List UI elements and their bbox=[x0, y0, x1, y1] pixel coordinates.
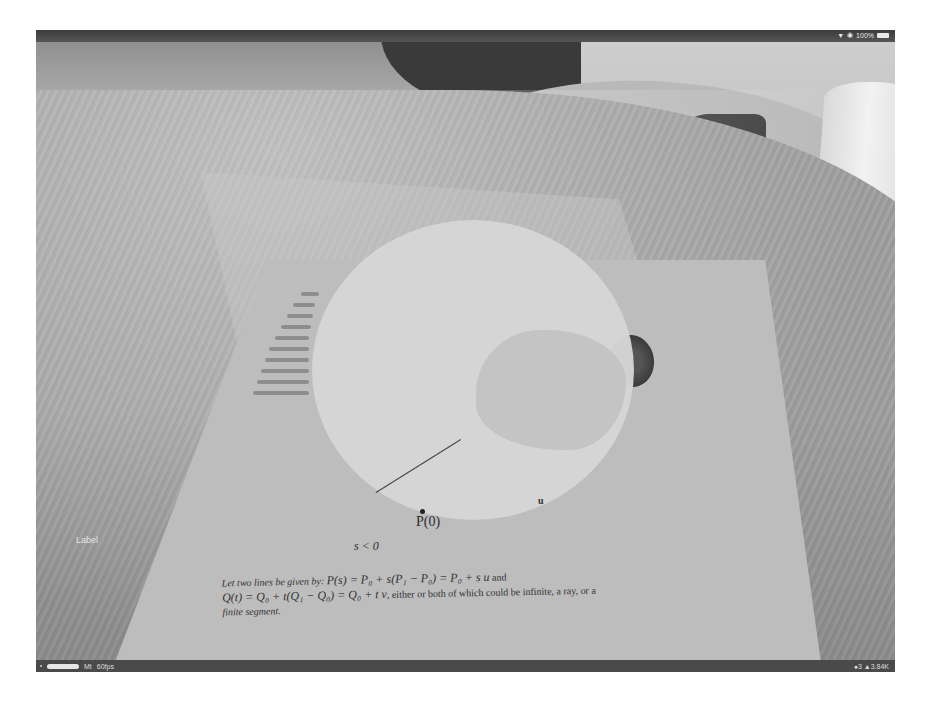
vector-mark: u bbox=[538, 495, 544, 506]
battery-percent: 100% bbox=[856, 32, 874, 39]
renderer-label: Mt bbox=[84, 663, 92, 670]
fps-counter: 60fps bbox=[97, 663, 114, 670]
ray-label: s < 0 bbox=[354, 539, 379, 554]
progress-pill bbox=[47, 664, 79, 669]
paragraph-end: finite segment. bbox=[222, 605, 281, 617]
ar-camera-view[interactable]: P(0) s < 0 u Let two lines be given by: … bbox=[36, 30, 895, 672]
paragraph-rest: , either or both of which could be infin… bbox=[387, 585, 596, 600]
battery-icon bbox=[877, 33, 889, 38]
indicator-dot-icon bbox=[40, 665, 42, 667]
debug-stats-bar: Mt 60fps ●3 ▲3.84K bbox=[36, 660, 895, 672]
scene-stats: ●3 ▲3.84K bbox=[854, 663, 895, 670]
point-label: P(0) bbox=[416, 514, 440, 530]
ar-blob-shape[interactable] bbox=[476, 330, 626, 450]
equation-q: Q(t) = Q₀ + t(Q₁ − Q₀) = Q₀ + t v bbox=[222, 587, 387, 604]
paragraph-and: and bbox=[492, 571, 507, 582]
status-bar bbox=[36, 30, 895, 42]
orientation-lock-icon: ◉ bbox=[847, 31, 853, 39]
wifi-icon: ▼ bbox=[837, 32, 844, 39]
status-bar-right: ▼ ◉ 100% bbox=[837, 31, 889, 39]
ar-text-label[interactable]: Label bbox=[76, 535, 98, 545]
paragraph-intro: Let two lines be given by: bbox=[222, 575, 325, 588]
